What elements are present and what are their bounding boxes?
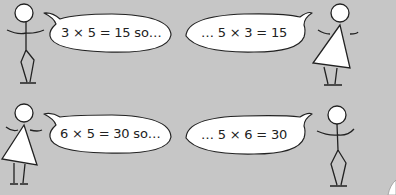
stick-figure-boy-top-left (7, 4, 44, 83)
stick-figure-girl-top-right (313, 4, 358, 85)
scene-drawing (0, 0, 396, 195)
speech-text-bottom-right: … 5 × 6 = 30 (201, 127, 287, 142)
speech-text-top-left: 3 × 5 = 15 so… (61, 25, 161, 40)
illustration-panel: 3 × 5 = 15 so… … 5 × 3 = 15 6 × 5 = 30 s… (0, 0, 396, 195)
stick-figure-girl-bottom-left (2, 104, 42, 184)
stick-figure-boy-bottom-right (317, 106, 354, 186)
corner-arc-decoration (388, 180, 396, 195)
speech-text-top-right: … 5 × 3 = 15 (201, 25, 287, 40)
speech-text-bottom-left: 6 × 5 = 30 so… (60, 126, 160, 141)
